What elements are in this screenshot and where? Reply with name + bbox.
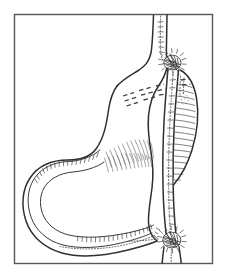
- illustration-plate: [0, 0, 231, 278]
- anatomical-drawing: [0, 0, 231, 278]
